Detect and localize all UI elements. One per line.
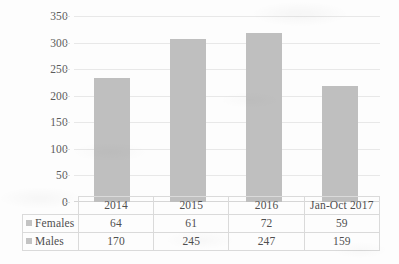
legend-label-males: Males	[35, 235, 64, 248]
legend-swatch-icon	[26, 238, 32, 244]
y-tick-mark	[65, 149, 70, 150]
y-tick-mark	[65, 16, 70, 17]
column-header-2016: 2016	[229, 197, 304, 215]
column-header-jan-oct-2017: Jan-Oct 2017	[304, 197, 379, 215]
cell-females-2015: 61	[154, 215, 229, 233]
legend-item-females[interactable]: Females	[23, 215, 79, 233]
gridline-250	[74, 69, 380, 70]
y-tick-label: 150	[28, 117, 68, 128]
legend-label-females: Females	[35, 217, 74, 230]
y-tick-mark	[65, 69, 70, 70]
gridline-350	[74, 16, 380, 17]
y-tick-mark	[65, 43, 70, 44]
y-tick-mark	[65, 122, 70, 123]
cell-males-2016: 247	[229, 233, 304, 251]
cell-males-2014: 170	[78, 233, 153, 251]
column-header-2014: 2014	[78, 197, 153, 215]
legend-item-males[interactable]: Males	[23, 233, 79, 251]
cell-males-2015: 245	[154, 233, 229, 251]
table-row: Males 170 245 247 159	[23, 233, 380, 251]
plot-area	[74, 16, 380, 202]
bar-2016[interactable]	[246, 33, 282, 203]
y-tick-label: 100	[28, 144, 68, 155]
y-tick-mark	[65, 96, 70, 97]
cell-males-jan-oct-2017: 159	[304, 233, 379, 251]
table-row: Females 64 61 72 59	[23, 215, 380, 233]
legend-swatch-icon	[26, 220, 32, 226]
column-header-2015: 2015	[154, 197, 229, 215]
bar-2014[interactable]	[94, 78, 130, 202]
y-tick-label: 350	[28, 11, 68, 22]
cell-females-jan-oct-2017: 59	[304, 215, 379, 233]
y-axis: 350 300 250 200 150 100 50 0	[24, 16, 68, 202]
table-header-row: 2014 2015 2016 Jan-Oct 2017	[23, 197, 380, 215]
bar-2015[interactable]	[170, 39, 206, 202]
chart-page: 350 300 250 200 150 100 50 0	[0, 0, 399, 264]
y-tick-label: 200	[28, 91, 68, 102]
bar-jan-oct-2017[interactable]	[322, 86, 358, 202]
cell-females-2014: 64	[78, 215, 153, 233]
gridline-300	[74, 43, 380, 44]
y-tick-label: 250	[28, 64, 68, 75]
y-tick-label: 300	[28, 38, 68, 49]
table-corner-cell	[23, 197, 79, 215]
y-tick-label: 50	[28, 170, 68, 181]
y-tick-mark	[65, 175, 70, 176]
data-table: 2014 2015 2016 Jan-Oct 2017 Females 64 6…	[22, 196, 380, 251]
cell-females-2016: 72	[229, 215, 304, 233]
